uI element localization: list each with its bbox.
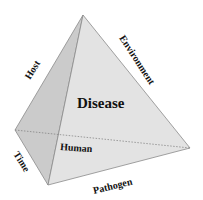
- label-host: Host: [22, 58, 42, 81]
- label-disease: Disease: [77, 95, 125, 111]
- label-pathogen: Pathogen: [92, 175, 134, 195]
- label-human: Human: [60, 141, 93, 154]
- disease-tetrahedron: Disease Human Host Environment Time Path…: [0, 0, 203, 200]
